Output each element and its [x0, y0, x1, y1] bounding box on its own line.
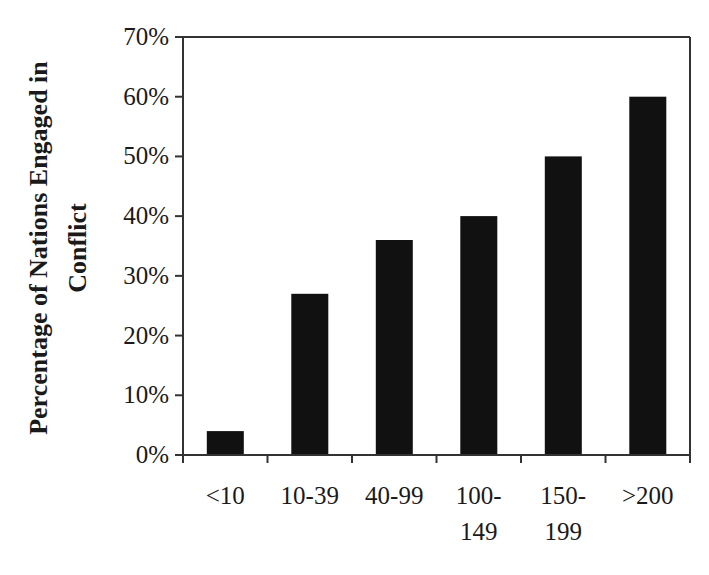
bar [545, 156, 582, 455]
y-tick-label: 20% [89, 323, 169, 348]
axes-group [175, 37, 690, 463]
x-tick-label: 40-99 [349, 478, 439, 514]
y-tick-label: 30% [89, 263, 169, 288]
bar [376, 240, 413, 455]
x-tick-label: 150- 199 [518, 478, 608, 550]
bar [207, 431, 244, 455]
x-tick-label: >200 [603, 478, 693, 514]
x-tick-label: 10-39 [265, 478, 355, 514]
y-tick-label: 70% [89, 24, 169, 49]
bars-group [207, 97, 667, 455]
y-tick-label: 50% [89, 143, 169, 168]
y-tick-label: 0% [89, 442, 169, 467]
bar [629, 97, 666, 455]
x-tick-label: 100- 149 [434, 478, 524, 550]
x-tick-label: <10 [180, 478, 270, 514]
bar [460, 216, 497, 455]
bar [291, 294, 328, 455]
y-tick-label: 10% [89, 382, 169, 407]
bar-chart: Percentage of Nations Engaged in Conflic… [0, 0, 709, 575]
y-tick-label: 40% [89, 203, 169, 228]
y-tick-label: 60% [89, 84, 169, 109]
